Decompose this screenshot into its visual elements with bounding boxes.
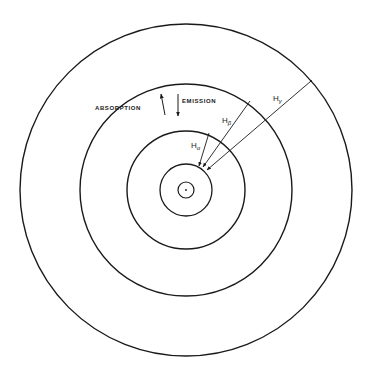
transition-h-beta: Hβ — [203, 101, 250, 167]
nucleus — [185, 189, 187, 191]
h-beta-symbol: Hβ — [222, 116, 232, 126]
h-gamma-arrow-icon — [207, 81, 311, 170]
absorption-label: ABSORPTION — [95, 105, 141, 111]
h-gamma-start-dot — [310, 80, 312, 82]
h-beta-arrow-icon — [203, 101, 250, 167]
bohr-atom-diagram: ABSORPTION EMISSION Hα Hβ Hγ — [0, 0, 369, 377]
emission-legend: EMISSION — [178, 94, 216, 116]
emission-label: EMISSION — [182, 98, 216, 104]
h-alpha-symbol: Hα — [191, 141, 201, 151]
absorption-legend: ABSORPTION — [95, 94, 165, 115]
h-gamma-symbol: Hγ — [273, 94, 283, 104]
transition-h-alpha: Hα — [191, 133, 209, 166]
transition-h-gamma: Hγ — [207, 80, 312, 170]
absorption-arrow-icon — [161, 94, 165, 115]
